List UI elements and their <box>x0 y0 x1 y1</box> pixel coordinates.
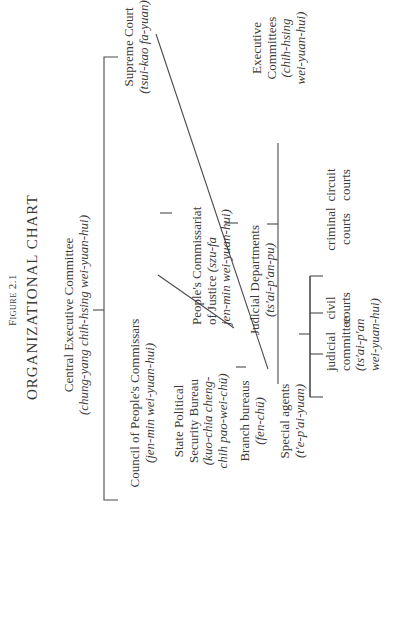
civil-line2: courts <box>339 283 354 333</box>
supreme-court-name: Supreme Court <box>122 0 137 97</box>
org-chart: Figure 2.1 ORGANIZATIONAL CHART Central … <box>0 0 418 631</box>
circuit-line1: circuit <box>324 155 339 215</box>
agents-name: Special agents <box>278 371 293 471</box>
spsb-line1: State Political <box>172 371 187 471</box>
node-civil-courts: civil courts <box>324 283 353 333</box>
exec-line2: Committees <box>265 3 280 93</box>
civil-line1: civil <box>324 283 339 333</box>
exec-line1: Executive <box>250 3 265 93</box>
justice-line3: jen-min wei-yuan-hui) <box>219 185 234 325</box>
justice-line1: People's Commissariat <box>190 185 205 325</box>
figure-title: ORGANIZATIONAL CHART <box>24 200 41 400</box>
node-branch-bureaus: Branch bureaus (fen-chü) <box>238 371 267 471</box>
agents-romanized: (t'e-p'ai-yuan) <box>293 371 308 471</box>
jc-line4: wei-yuan-hui) <box>368 281 383 371</box>
spsb-line2: Security Bureau <box>187 371 202 471</box>
council-romanized: (jen-min wei-yuan-hui) <box>143 303 158 503</box>
justice-line2: of Justice <box>204 276 219 325</box>
node-circuit-courts: circuit courts <box>324 155 353 215</box>
cec-bracket-line <box>104 57 118 500</box>
node-cec: Central Executive Committee (chung-yang … <box>62 215 91 415</box>
branch-name: Branch bureaus <box>238 371 253 471</box>
cec-romanized: (chung-yang chih-hsing wei-yuan-hui) <box>77 215 92 415</box>
node-spsb: State Political Security Bureau (kuo-chi… <box>172 371 230 471</box>
circuit-line2: courts <box>339 155 354 215</box>
judicial-dept-name: Judicial Departments <box>248 215 263 345</box>
node-executive-committees: Executive Committees (chih-hsing wei-yua… <box>250 3 308 93</box>
branch-romanized: (fen-chü) <box>253 371 268 471</box>
node-justice: People's Commissariat of Justice (szu-fa… <box>190 185 234 325</box>
cec-name: Central Executive Committee <box>62 215 77 415</box>
council-name: Council of People's Commissars <box>128 303 143 503</box>
node-council: Council of People's Commissars (jen-min … <box>128 303 157 503</box>
jc-line3: (ts'ai-p'an <box>353 281 368 371</box>
node-special-agents: Special agents (t'e-p'ai-yuan) <box>278 371 307 471</box>
node-judicial-departments: Judicial Departments (ts'ai-p'an-pu) <box>248 215 277 345</box>
exec-line4: wei-yuan-hui) <box>294 3 309 93</box>
justice-line2-romanized: (szu-fa <box>204 237 219 272</box>
exec-line3: (chih-hsing <box>279 3 294 93</box>
spsb-line3: (kuo-chia cheng- <box>201 371 216 471</box>
figure-label: Figure 2.1 <box>6 260 18 340</box>
spsb-line4: chih pao-wei-chü) <box>216 371 231 471</box>
judicial-dept-romanized: (ts'ai-p'an-pu) <box>263 215 278 345</box>
node-supreme-court: Supreme Court (tsui-kao fa-yuan) <box>122 0 151 97</box>
supreme-court-romanized: (tsui-kao fa-yuan) <box>137 0 152 97</box>
